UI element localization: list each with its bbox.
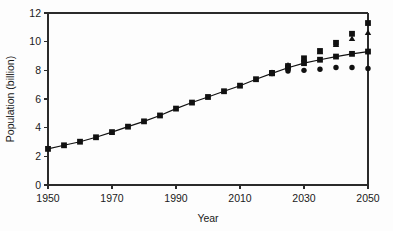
series-line <box>48 52 368 149</box>
y-axis-ticks <box>44 13 48 185</box>
x-tick-label: 2030 <box>292 192 316 204</box>
marker-square <box>221 88 227 94</box>
series-low-variant <box>269 65 370 76</box>
y-axis-tick-labels: 024681012 <box>29 7 41 191</box>
marker-square <box>349 51 355 57</box>
data-series-layer <box>45 20 371 152</box>
x-tick-label: 2050 <box>356 192 380 204</box>
marker-circle <box>269 71 274 76</box>
y-tick-label: 12 <box>29 7 41 19</box>
marker-square <box>237 83 243 89</box>
marker-circle <box>333 65 338 70</box>
marker-square <box>205 94 211 100</box>
marker-square <box>365 20 371 26</box>
marker-square <box>157 113 163 119</box>
marker-square <box>365 49 371 55</box>
y-tick-label: 8 <box>35 64 41 76</box>
marker-square <box>45 146 51 152</box>
marker-square <box>253 76 259 82</box>
marker-square <box>189 100 195 106</box>
x-tick-label: 2010 <box>228 192 252 204</box>
marker-triangle <box>365 29 371 35</box>
y-tick-label: 4 <box>35 121 41 133</box>
marker-square <box>77 139 83 145</box>
x-axis-ticks <box>48 185 368 189</box>
x-tick-label: 1950 <box>36 192 60 204</box>
series-medium-variant <box>45 49 371 152</box>
marker-square <box>333 54 339 60</box>
marker-circle <box>365 66 370 71</box>
population-projection-chart: 024681012 195019701990201020302050 Year … <box>0 0 393 231</box>
y-tick-label: 0 <box>35 179 41 191</box>
chart-canvas: 024681012 195019701990201020302050 Year … <box>0 0 393 231</box>
x-tick-label: 1990 <box>164 192 188 204</box>
marker-square <box>109 129 115 135</box>
marker-circle <box>301 68 306 73</box>
x-axis-title: Year <box>197 212 219 224</box>
y-tick-label: 10 <box>29 35 41 47</box>
marker-square <box>173 106 179 112</box>
y-tick-label: 2 <box>35 150 41 162</box>
marker-square <box>93 134 99 140</box>
y-axis-title: Population (billion) <box>4 56 16 142</box>
marker-circle <box>285 68 290 73</box>
x-axis-tick-labels: 195019701990201020302050 <box>36 192 380 204</box>
marker-square <box>125 124 131 130</box>
marker-square <box>61 142 67 148</box>
marker-circle <box>317 66 322 71</box>
y-tick-label: 6 <box>35 93 41 105</box>
marker-square <box>141 118 147 124</box>
marker-square <box>317 57 323 63</box>
x-tick-label: 1970 <box>100 192 124 204</box>
marker-circle <box>349 65 354 70</box>
